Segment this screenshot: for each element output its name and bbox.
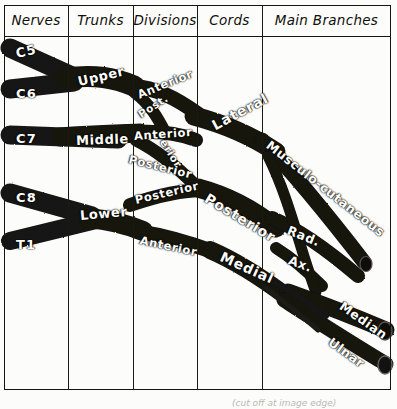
column-header-nerves: Nerves: [4, 12, 68, 28]
column-header-cords: Cords: [197, 12, 262, 28]
bottom-caption: (cut off at image edge): [232, 398, 382, 409]
nerve-root-label-c8: C8: [16, 190, 37, 205]
column-divider-1: [68, 5, 69, 390]
column-divider-4: [262, 5, 263, 390]
nerve-root-label-c6: C6: [16, 86, 37, 101]
column-divider-3: [197, 5, 198, 390]
nerve-root-label-c7: C7: [16, 131, 37, 146]
brachial-plexus-figure: Nerves Trunks Divisions Cords Main Branc…: [0, 0, 397, 409]
nerve-root-label-t1: T1: [16, 237, 36, 252]
trunk-label-middle: Middle: [76, 131, 129, 148]
column-header-trunks: Trunks: [68, 12, 133, 28]
column-header-main-branches: Main Branches: [262, 12, 391, 28]
column-header-divisions: Divisions: [133, 12, 197, 28]
